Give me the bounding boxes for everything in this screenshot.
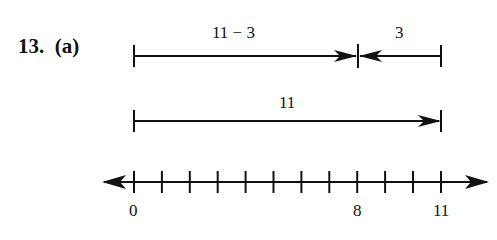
tick-label-8: 8 [353,202,362,219]
tick-label-0: 0 [129,202,138,219]
label-three: 3 [395,24,404,41]
label-eleven: 11 [279,94,295,111]
arrow-eleven [134,110,441,132]
label-eleven-minus-three: 11 − 3 [212,24,255,41]
tick-label-11: 11 [433,202,449,219]
number-line [102,171,489,193]
arrow-three [359,45,441,67]
arrow-eleven-minus-three [134,45,357,67]
